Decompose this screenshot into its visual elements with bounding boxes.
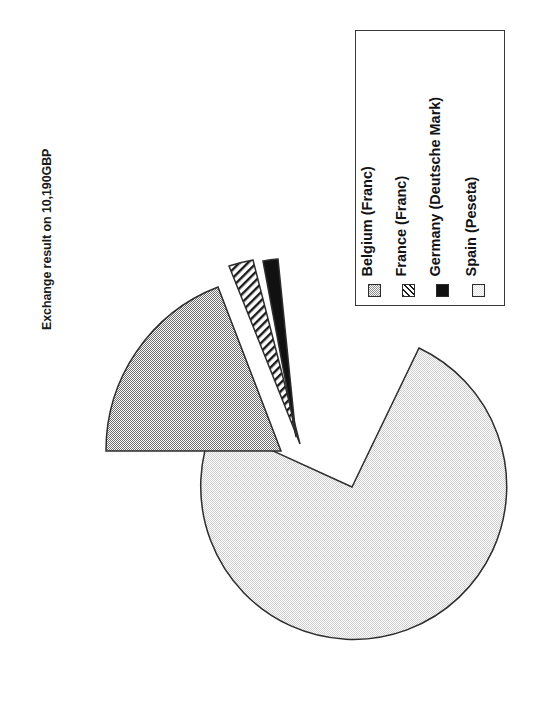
legend: Belgium (Franc) France (Franc) Germany (… <box>355 30 505 306</box>
legend-label-spain: Spain (Peseta) <box>464 176 479 276</box>
legend-label-belgium: Belgium (Franc) <box>360 166 375 276</box>
chart-canvas: Exchange result on 10,190GBP <box>0 0 540 712</box>
legend-item-belgium[interactable]: Belgium (Franc) <box>360 67 392 297</box>
legend-swatch-belgium <box>368 284 381 297</box>
legend-swatch-germany <box>436 284 449 297</box>
legend-item-spain[interactable]: Spain (Peseta) <box>464 67 496 297</box>
legend-swatch-spain <box>472 284 485 297</box>
legend-item-france[interactable]: France (Franc) <box>394 67 426 297</box>
legend-label-france: France (Franc) <box>394 175 409 276</box>
legend-item-germany[interactable]: Germany (Deutsche Mark) <box>428 67 460 297</box>
legend-label-germany: Germany (Deutsche Mark) <box>428 96 443 276</box>
legend-swatch-france <box>402 284 415 297</box>
